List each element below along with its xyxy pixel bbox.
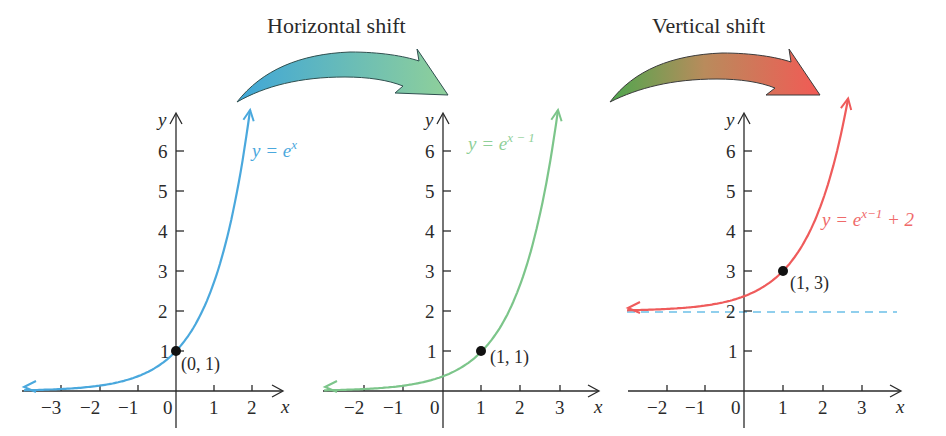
svg-text:y: y <box>156 109 167 130</box>
point-label-1-3: (1, 3) <box>790 273 829 294</box>
horizontal-shift-title: Horizontal shift <box>267 13 406 38</box>
svg-text:4: 4 <box>726 221 736 242</box>
equation-label-exp-shifted: y = ex − 1 <box>466 130 535 154</box>
svg-text:5: 5 <box>425 181 435 202</box>
svg-text:2: 2 <box>425 301 435 322</box>
x-axis <box>323 385 599 397</box>
svg-text:−3: −3 <box>41 397 61 418</box>
svg-text:0: 0 <box>731 397 741 418</box>
svg-text:y: y <box>724 109 735 130</box>
svg-text:3: 3 <box>158 261 168 282</box>
svg-text:3: 3 <box>425 261 435 282</box>
y-axis <box>738 113 752 428</box>
x-axis <box>628 385 901 397</box>
transformation-figure: Horizontal shift Vertical shift −3 −2 <box>0 0 946 436</box>
y-tick-labels: 6 5 4 3 2 1 y <box>156 109 170 362</box>
svg-text:2: 2 <box>726 301 736 322</box>
svg-text:4: 4 <box>425 221 435 242</box>
svg-text:6: 6 <box>726 141 736 162</box>
svg-text:−1: −1 <box>118 397 138 418</box>
curve-exp <box>24 110 250 390</box>
x-axis <box>22 385 283 397</box>
svg-text:0: 0 <box>163 397 173 418</box>
svg-text:−2: −2 <box>647 397 667 418</box>
panel-exp-vertical-shift: −2 −1 0 1 2 3 x 6 5 4 3 2 1 y (1, 3) y =… <box>627 99 915 429</box>
svg-text:5: 5 <box>726 181 736 202</box>
svg-text:2: 2 <box>158 301 168 322</box>
point-1-1 <box>476 346 486 356</box>
svg-text:6: 6 <box>158 141 168 162</box>
equation-label-exp: y = ex <box>250 137 297 161</box>
y-tick-labels: 6 5 4 3 2 1 y <box>724 109 738 362</box>
x-tick-labels: −2 −1 0 1 2 3 x <box>647 396 905 418</box>
svg-text:1: 1 <box>728 341 738 362</box>
svg-text:5: 5 <box>158 181 168 202</box>
svg-text:3: 3 <box>726 261 736 282</box>
point-0-1 <box>171 346 181 356</box>
svg-text:3: 3 <box>555 397 565 418</box>
y-tick-labels: 6 5 4 3 2 1 y <box>423 109 437 362</box>
svg-text:−1: −1 <box>383 397 403 418</box>
x-tick-labels: −3 −2 −1 0 1 2 x <box>41 396 290 418</box>
equation-label-exp-shifted-up: y = ex−1 + 2 <box>820 206 915 230</box>
vertical-shift-title: Vertical shift <box>652 13 765 38</box>
svg-text:x: x <box>593 396 603 417</box>
svg-text:3: 3 <box>857 397 867 418</box>
svg-text:4: 4 <box>158 221 168 242</box>
svg-text:1: 1 <box>476 397 486 418</box>
vertical-shift-arrow-icon <box>610 49 820 102</box>
svg-text:2: 2 <box>818 397 828 418</box>
horizontal-shift-arrow-icon <box>237 49 448 102</box>
svg-text:−1: −1 <box>685 397 705 418</box>
panel-exp: −3 −2 −1 0 1 2 x 6 5 4 3 2 1 y (0, 1) y … <box>22 109 297 428</box>
svg-text:2: 2 <box>247 397 257 418</box>
svg-text:−2: −2 <box>80 397 100 418</box>
svg-text:−2: −2 <box>344 397 364 418</box>
y-axis <box>170 113 184 428</box>
svg-text:2: 2 <box>515 397 525 418</box>
svg-text:6: 6 <box>425 141 435 162</box>
point-label-0-1: (0, 1) <box>181 354 220 375</box>
svg-text:1: 1 <box>427 341 437 362</box>
svg-text:x: x <box>895 396 905 417</box>
svg-text:x: x <box>280 396 290 417</box>
panel-exp-horizontal-shift: −2 −1 0 1 2 3 x 6 5 4 3 2 1 y (1, 1) y =… <box>323 109 603 428</box>
svg-text:0: 0 <box>430 397 440 418</box>
y-axis <box>437 113 451 428</box>
svg-text:1: 1 <box>778 397 788 418</box>
x-tick-labels: −2 −1 0 1 2 3 x <box>344 396 603 418</box>
point-label-1-1: (1, 1) <box>490 347 529 368</box>
svg-text:1: 1 <box>209 397 219 418</box>
point-1-3 <box>778 266 788 276</box>
svg-text:y: y <box>423 109 434 130</box>
